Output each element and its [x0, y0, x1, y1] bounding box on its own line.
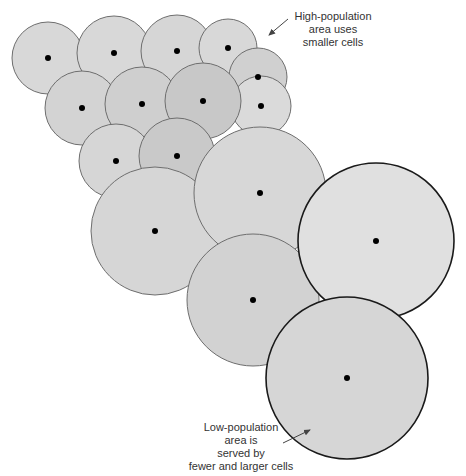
cell-tower-dot-icon — [250, 297, 256, 303]
low-population-label-line-2: area is — [186, 434, 296, 447]
cell-tower-dot-icon — [152, 228, 158, 234]
cells-layer — [12, 15, 454, 459]
cell-tower-dot-icon — [174, 153, 180, 159]
cell-tower-dot-icon — [255, 74, 261, 80]
cell-tower-dot-icon — [113, 158, 119, 164]
cell-coverage-diagram — [0, 0, 466, 476]
cell-tower-dot-icon — [45, 55, 51, 61]
low-population-label-line-3: served by — [186, 447, 296, 460]
cell-tower-dot-icon — [111, 50, 117, 56]
high-population-label-line-3: smaller cells — [278, 36, 388, 49]
cell-tower-dot-icon — [225, 45, 231, 51]
high-population-label: High-population area uses smaller cells — [278, 10, 388, 49]
high-population-label-line-1: High-population — [278, 10, 388, 23]
high-population-label-line-2: area uses — [278, 23, 388, 36]
low-population-label: Low-population area is served by fewer a… — [186, 421, 296, 473]
low-population-label-line-4: fewer and larger cells — [186, 460, 296, 473]
low-population-label-line-1: Low-population — [186, 421, 296, 434]
cell-tower-dot-icon — [174, 48, 180, 54]
cell-tower-dot-icon — [373, 238, 379, 244]
cell-tower-dot-icon — [200, 98, 206, 104]
cell-tower-dot-icon — [344, 375, 350, 381]
cell-tower-dot-icon — [79, 105, 85, 111]
cell-tower-dot-icon — [139, 101, 145, 107]
cell-tower-dot-icon — [257, 190, 263, 196]
cell-tower-dot-icon — [258, 103, 264, 109]
